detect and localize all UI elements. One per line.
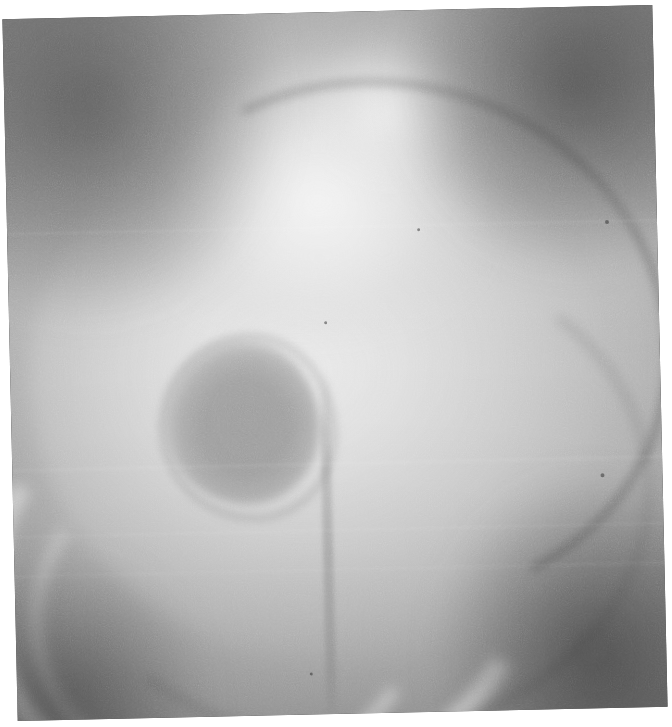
screenshot-canvas xyxy=(0,0,672,727)
tone-curve-overlay xyxy=(2,5,667,721)
radiograph-photo xyxy=(2,5,667,721)
